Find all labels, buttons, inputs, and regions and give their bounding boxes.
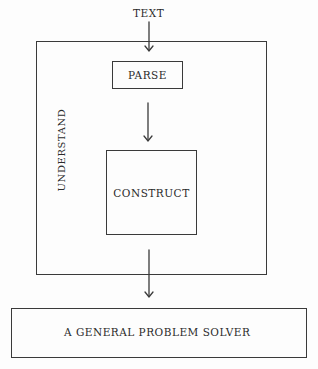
- construct-label: CONSTRUCT: [113, 187, 189, 199]
- parse-label: PARSE: [128, 69, 167, 81]
- parse-box: PARSE: [112, 61, 183, 89]
- general-problem-solver-box: A GENERAL PROBLEM SOLVER: [11, 308, 307, 358]
- diagram-canvas: TEXT UNDERSTAND PARSE CONSTRUCT A GENERA…: [0, 0, 318, 369]
- understand-label: UNDERSTAND: [56, 122, 67, 192]
- text-input-label: TEXT: [133, 7, 164, 19]
- general-problem-solver-label: A GENERAL PROBLEM SOLVER: [64, 326, 250, 338]
- construct-box: CONSTRUCT: [106, 150, 197, 235]
